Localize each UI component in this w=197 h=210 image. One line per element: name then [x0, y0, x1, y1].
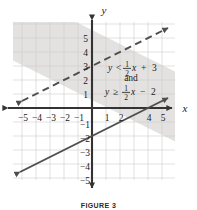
figure-container: y x −5 −4 −3 −2 −1 1 2 4 5 5 4 3 2 1 −1 …	[0, 0, 197, 210]
ineq2-frac-numerator: 1	[124, 84, 128, 93]
x-tick-label: −3	[46, 113, 56, 123]
x-tick-label: 1	[105, 113, 110, 123]
x-tick-label: 5	[161, 113, 166, 123]
x-tick-label: −4	[32, 113, 42, 123]
ineq2-frac-denominator: 2	[124, 93, 128, 102]
conjunction-label: and	[124, 73, 138, 83]
ineq1-lhs: y	[107, 63, 113, 73]
y-tick-label: 3	[83, 62, 88, 72]
ineq1-variable: x	[131, 63, 137, 73]
y-tick-label: −3	[80, 148, 90, 158]
ineq1-constant: 3	[152, 63, 157, 73]
y-tick-label: −5	[80, 176, 90, 186]
coordinate-graph: y x −5 −4 −3 −2 −1 1 2 4 5 5 4 3 2 1 −1 …	[0, 0, 197, 210]
x-tick-label: 2	[119, 113, 124, 123]
x-axis-label: x	[182, 102, 188, 114]
ineq2-relation: ≥	[113, 87, 118, 97]
x-tick-label: −2	[60, 113, 70, 123]
y-tick-label: −4	[80, 162, 90, 172]
ineq2-variable: x	[130, 87, 136, 97]
ineq1-frac-numerator: 1	[125, 60, 129, 69]
y-tick-label: 1	[83, 90, 88, 100]
y-tick-label: 4	[83, 48, 88, 58]
ineq1-relation: <	[116, 63, 121, 73]
y-axis-label: y	[101, 4, 107, 16]
ineq2-constant: 2	[151, 87, 156, 97]
y-tick-label: −1	[80, 120, 90, 130]
ineq2-sign: −	[140, 87, 145, 97]
ineq2-lhs: y	[104, 87, 110, 97]
y-tick-label: 5	[83, 34, 88, 44]
x-tick-label: 4	[147, 113, 152, 123]
ineq1-sign: +	[141, 63, 146, 73]
x-tick-label: −5	[18, 113, 28, 123]
y-tick-label: 2	[83, 76, 88, 86]
y-tick-label: −2	[80, 134, 90, 144]
figure-caption: FIGURE 3	[0, 202, 197, 210]
